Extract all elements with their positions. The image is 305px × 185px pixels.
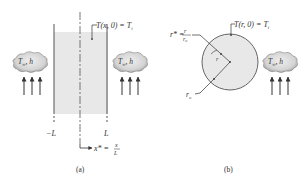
panel-b: T(r, 0) = Ti r ro r* = r ro T∞, h (b) bbox=[170, 20, 298, 174]
x-star-axis-arrow bbox=[80, 144, 92, 148]
x-star-definition: x* = x L bbox=[93, 142, 120, 156]
svg-text:T∞, h: T∞, h bbox=[268, 57, 283, 67]
svg-text:r: r bbox=[184, 28, 187, 34]
svg-text:L: L bbox=[113, 150, 118, 156]
svg-text:T∞, h: T∞, h bbox=[18, 57, 33, 67]
left-fluid: T∞, h bbox=[13, 52, 48, 95]
panel-a: T(x, 0) = Ti −L L x* = x L (a) T∞, h T∞,… bbox=[13, 12, 148, 174]
svg-text:T∞, h: T∞, h bbox=[118, 57, 133, 67]
svg-text:ro: ro bbox=[183, 36, 187, 43]
diagram-canvas: T(x, 0) = Ti −L L x* = x L (a) T∞, h T∞,… bbox=[0, 0, 305, 185]
svg-text:x: x bbox=[114, 142, 118, 148]
caption-a: (a) bbox=[76, 165, 85, 174]
right-face-label: L bbox=[103, 129, 109, 138]
svg-text:x* =: x* = bbox=[93, 144, 109, 153]
right-fluid: T∞, h bbox=[113, 52, 148, 95]
r-star-definition: r* = r ro bbox=[170, 28, 191, 43]
left-face-label: −L bbox=[46, 129, 56, 138]
caption-b: (b) bbox=[224, 165, 233, 174]
cylinder-initial-condition-label: T(r, 0) = Ti bbox=[234, 20, 270, 30]
outer-radius-label: ro bbox=[186, 90, 192, 100]
plane-wall bbox=[54, 32, 108, 114]
wall-initial-condition-label: T(x, 0) = Ti bbox=[96, 21, 133, 31]
cylinder-fluid: T∞, h bbox=[263, 52, 298, 95]
